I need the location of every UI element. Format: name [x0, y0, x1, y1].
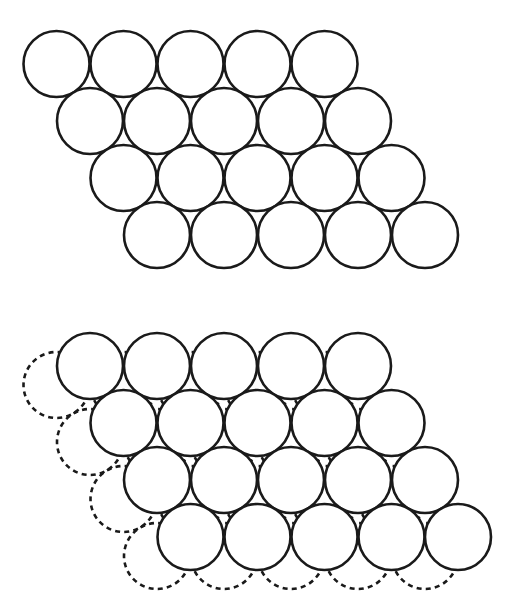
solid-sphere: [325, 202, 391, 268]
solid-sphere: [392, 202, 458, 268]
solid-sphere: [191, 333, 257, 399]
single-layer-svg: [0, 0, 511, 300]
panel-single-layer: [0, 0, 511, 300]
solid-sphere: [292, 31, 358, 97]
solid-sphere: [191, 202, 257, 268]
panel-two-layers: [0, 300, 511, 613]
solid-sphere-layer: [24, 31, 459, 268]
solid-sphere: [359, 145, 425, 211]
solid-sphere: [292, 145, 358, 211]
solid-sphere: [124, 333, 190, 399]
solid-sphere: [425, 504, 491, 570]
solid-sphere: [158, 504, 224, 570]
solid-sphere: [225, 390, 291, 456]
solid-sphere: [225, 504, 291, 570]
solid-sphere: [258, 333, 324, 399]
solid-sphere: [91, 31, 157, 97]
solid-sphere-layer: [57, 333, 491, 570]
solid-sphere: [158, 390, 224, 456]
solid-sphere: [292, 504, 358, 570]
solid-sphere: [158, 31, 224, 97]
solid-sphere: [91, 390, 157, 456]
solid-sphere: [325, 88, 391, 154]
solid-sphere: [359, 390, 425, 456]
solid-sphere: [292, 390, 358, 456]
solid-sphere: [124, 202, 190, 268]
solid-sphere: [191, 447, 257, 513]
solid-sphere: [258, 447, 324, 513]
solid-sphere: [158, 145, 224, 211]
two-layers-svg: [0, 300, 511, 613]
solid-sphere: [57, 333, 123, 399]
solid-sphere: [258, 202, 324, 268]
solid-sphere: [392, 447, 458, 513]
solid-sphere: [225, 145, 291, 211]
solid-sphere: [124, 88, 190, 154]
solid-sphere: [325, 447, 391, 513]
solid-sphere: [258, 88, 324, 154]
solid-sphere: [191, 88, 257, 154]
solid-sphere: [124, 447, 190, 513]
solid-sphere: [57, 88, 123, 154]
solid-sphere: [225, 31, 291, 97]
solid-sphere: [359, 504, 425, 570]
solid-sphere: [91, 145, 157, 211]
figure-root: [0, 0, 511, 613]
solid-sphere: [325, 333, 391, 399]
solid-sphere: [24, 31, 90, 97]
